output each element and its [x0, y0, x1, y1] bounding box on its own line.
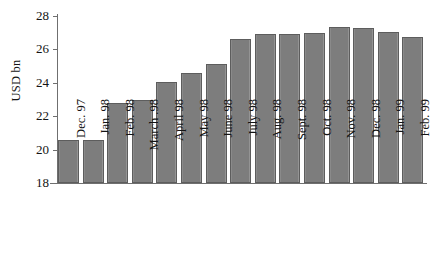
x-axis-label: July 98: [246, 99, 260, 189]
y-axis-tick-label: 20: [36, 141, 49, 158]
y-axis-tick-label: 22: [36, 107, 49, 124]
x-axis-label: Feb. 98: [123, 99, 137, 189]
x-axis-label: Jan. 98: [98, 99, 112, 189]
x-axis-label: April 98: [172, 99, 186, 189]
y-axis-title: USD bn: [9, 46, 24, 116]
x-axis-label: Nov. 98: [344, 99, 358, 189]
y-axis-tick: 26: [0, 49, 58, 50]
y-axis-tick: 18: [0, 183, 58, 184]
y-axis-tick-label: 24: [36, 74, 49, 91]
x-axis-label: March .98: [147, 99, 161, 189]
y-axis-tick-label: 26: [36, 40, 49, 57]
x-axis-label: Dec. 97: [74, 99, 88, 189]
x-axis-label: Dec. 98: [369, 99, 383, 189]
bar-chart: USD bn 282624222018 Dec. 97Jan. 98Feb. 9…: [0, 0, 441, 255]
y-axis-tick: 28: [0, 16, 58, 17]
y-axis-tick-mark: [53, 183, 58, 184]
y-axis-tick-label: 28: [36, 7, 49, 24]
y-axis-tick: 24: [0, 83, 58, 84]
x-axis-label: May 98: [197, 99, 211, 189]
y-axis-tick: 22: [0, 116, 58, 117]
x-axis-label: Jan. 99: [393, 99, 407, 189]
x-axis-label: Sept. 98: [295, 99, 309, 189]
x-axis-label: Oct. 98: [320, 99, 334, 189]
y-axis-tick: 20: [0, 150, 58, 151]
x-axis-label: Aug. 98: [270, 99, 284, 189]
x-axis-label: June 98: [221, 99, 235, 189]
y-axis-tick-label: 18: [36, 174, 49, 191]
x-axis-label: Feb. 99: [418, 99, 432, 189]
